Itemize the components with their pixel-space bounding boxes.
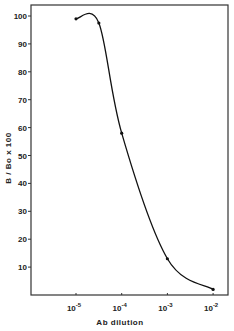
y-tick-label: 100 xyxy=(14,12,28,21)
y-tick-label: 80 xyxy=(18,68,27,77)
y-tick-label: 30 xyxy=(18,207,27,216)
y-tick-label: 60 xyxy=(18,124,27,133)
series-line xyxy=(76,13,213,289)
data-point xyxy=(120,132,123,135)
data-point xyxy=(74,17,77,20)
y-tick-label: 50 xyxy=(18,152,27,161)
x-tick-label: 10-3 xyxy=(158,302,173,313)
y-tick-label: 40 xyxy=(18,179,27,188)
x-tick-label: 10-5 xyxy=(67,302,82,313)
chart: 102030405060708090100 10-510-410-310-2 A… xyxy=(0,0,234,331)
y-axis-title: B / Bo x 100 xyxy=(4,132,13,183)
y-axis: 102030405060708090100 xyxy=(14,12,31,272)
plot-frame xyxy=(31,5,228,295)
x-tick-label: 10-4 xyxy=(113,302,128,313)
data-point xyxy=(97,21,100,24)
x-tick-label: 10-2 xyxy=(204,302,219,313)
y-tick-label: 10 xyxy=(18,263,27,272)
y-tick-label: 20 xyxy=(18,235,27,244)
x-axis: 10-510-410-310-2 xyxy=(67,293,219,313)
data-series xyxy=(74,13,214,291)
plot-border xyxy=(31,5,228,295)
y-tick-label: 90 xyxy=(18,40,27,49)
y-tick-label: 70 xyxy=(18,96,27,105)
data-point xyxy=(212,288,215,291)
data-point xyxy=(166,257,169,260)
x-axis-title: Ab dilution xyxy=(96,318,143,327)
